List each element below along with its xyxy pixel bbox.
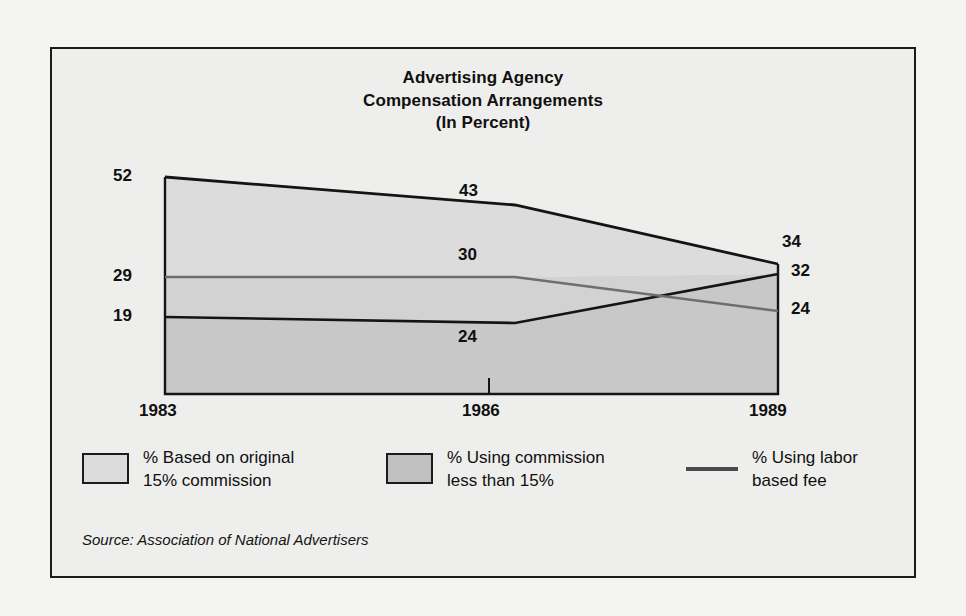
chart-legend: % Based on original 15% commission % Usi…	[78, 447, 898, 509]
y-label-left-52: 52	[113, 166, 132, 186]
value-label-30: 30	[458, 245, 477, 265]
legend-label-original-commission: % Based on original 15% commission	[143, 447, 294, 493]
legend-label-line-1: % Using labor	[752, 447, 858, 470]
legend-swatch-light-box-icon	[82, 453, 129, 484]
y-label-left-29: 29	[113, 266, 132, 286]
legend-swatch-line-icon	[686, 453, 738, 484]
legend-swatch-mid-box-icon	[386, 453, 433, 484]
legend-label-line-1: % Based on original	[143, 447, 294, 470]
y-label-left-19: 19	[113, 306, 132, 326]
legend-item-labor-based-fee: % Using labor based fee	[686, 447, 858, 493]
legend-label-line-2: based fee	[752, 470, 858, 493]
value-label-24: 24	[458, 327, 477, 347]
legend-label-labor-based-fee: % Using labor based fee	[752, 447, 858, 493]
y-label-right-34: 34	[782, 232, 801, 252]
legend-item-original-commission: % Based on original 15% commission	[82, 447, 294, 493]
value-label-43: 43	[459, 181, 478, 201]
x-label-1986: 1986	[462, 401, 500, 421]
legend-label-line-2: 15% commission	[143, 470, 294, 493]
legend-label-line-2: less than 15%	[447, 470, 605, 493]
page-background: Advertising Agency Compensation Arrangem…	[0, 0, 966, 616]
y-label-right-24: 24	[791, 299, 810, 319]
source-note: Source: Association of National Advertis…	[82, 531, 369, 548]
legend-item-commission-less-15: % Using commission less than 15%	[386, 447, 605, 493]
x-label-1983: 1983	[139, 401, 177, 421]
y-label-right-32: 32	[791, 261, 810, 281]
figure-frame: Advertising Agency Compensation Arrangem…	[50, 47, 916, 578]
legend-label-line-1: % Using commission	[447, 447, 605, 470]
legend-label-commission-less-15: % Using commission less than 15%	[447, 447, 605, 493]
x-label-1989: 1989	[749, 401, 787, 421]
